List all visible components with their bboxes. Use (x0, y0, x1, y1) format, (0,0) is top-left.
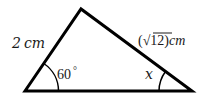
side-label-left: 2cm (11, 35, 45, 51)
angle-label-60: 60° (57, 65, 77, 82)
side-label-right: (√12)cm (138, 33, 185, 49)
triangle (25, 9, 192, 91)
angle-label-x: x (145, 66, 153, 82)
triangle-diagram: 2cm (√12)cm 60° x (0, 0, 202, 102)
angle-arc-x (159, 72, 166, 92)
